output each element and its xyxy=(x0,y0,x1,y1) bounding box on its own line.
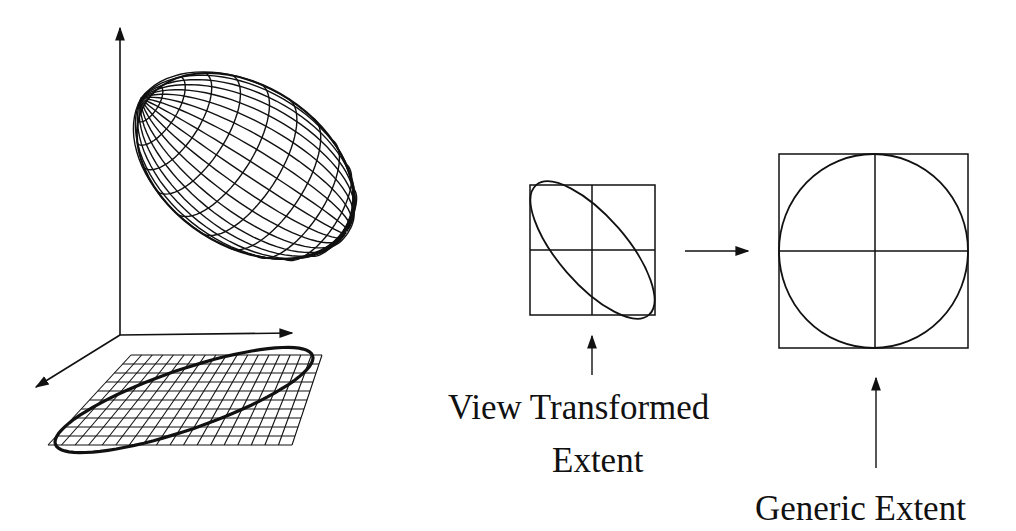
horizontal-axis xyxy=(120,333,292,335)
view-transformed-label-line1: View Transformed xyxy=(448,390,709,425)
extent-diagram: View Transformed Extent Generic Extent xyxy=(0,0,1016,531)
view-transformed-label-line2: Extent xyxy=(552,443,643,478)
diagram-canvas xyxy=(0,0,1016,531)
wireframe-ellipsoid xyxy=(102,35,387,298)
generic-extent-box xyxy=(779,154,968,348)
view-transformed-extent-box xyxy=(510,163,674,337)
depth-axis xyxy=(36,335,120,387)
generic-extent-label: Generic Extent xyxy=(755,491,966,526)
